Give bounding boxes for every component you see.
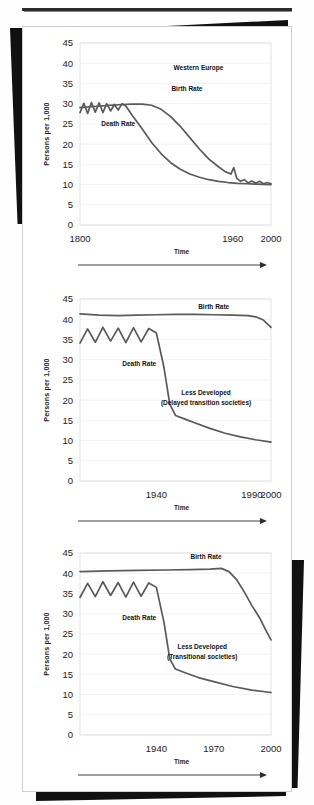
- plot-frame: [80, 553, 271, 735]
- x-axis-title: Time: [174, 758, 189, 765]
- x-axis-tick-label: 1990: [241, 489, 262, 500]
- birth-rate-label: Birth Rate: [171, 85, 202, 92]
- x-axis-tick-label: 1800: [69, 233, 90, 244]
- y-axis-tick-label: 25: [62, 118, 73, 129]
- y-axis-tick-label: 10: [62, 435, 73, 446]
- y-axis-tick-label: 5: [68, 455, 73, 466]
- y-axis-tick-label: 30: [62, 354, 73, 365]
- region-label: Less Developed: [181, 389, 231, 397]
- y-axis-title: Persons per 1,000: [43, 358, 51, 421]
- y-axis-tick-label: 0: [68, 219, 73, 230]
- x-axis-title: Time: [174, 248, 189, 255]
- death-rate-label: Death Rate: [122, 614, 156, 621]
- y-axis-tick-label: 5: [68, 709, 73, 720]
- x-axis-tick-label: 1940: [146, 743, 167, 754]
- y-axis-tick-label: 20: [62, 395, 73, 406]
- y-axis-tick-label: 25: [62, 374, 73, 385]
- y-axis-tick-label: 45: [62, 37, 73, 48]
- page-top-rule: [22, 8, 292, 11]
- y-axis-tick-label: 45: [62, 293, 73, 304]
- death-rate-curve: [80, 102, 271, 184]
- y-axis-tick-label: 15: [62, 159, 73, 170]
- y-axis-tick-label: 10: [62, 689, 73, 700]
- y-axis-tick-label: 15: [62, 415, 73, 426]
- death-rate-curve: [80, 327, 271, 442]
- x-axis-tick-label: 2000: [260, 743, 281, 754]
- y-axis-tick-label: 40: [62, 58, 73, 69]
- y-axis-tick-label: 0: [68, 475, 73, 486]
- birth-rate-curve: [80, 568, 271, 640]
- birth-rate-curve: [80, 314, 271, 327]
- x-axis-tick-label: 1940: [146, 489, 167, 500]
- chart-svg: 051015202530354045Persons per 1,00018001…: [23, 29, 291, 283]
- time-arrow-head: [260, 518, 267, 524]
- figure-page: 051015202530354045Persons per 1,00018001…: [0, 0, 314, 805]
- plot-frame: [80, 299, 271, 481]
- y-axis-tick-label: 40: [62, 568, 73, 579]
- chart-svg: 051015202530354045Persons per 1,00019401…: [23, 539, 291, 793]
- birth-rate-label: Birth Rate: [191, 553, 222, 560]
- x-axis-tick-label: 1970: [203, 743, 224, 754]
- y-axis-tick-label: 35: [62, 334, 73, 345]
- y-axis-tick-label: 25: [62, 628, 73, 639]
- page-shadow-bottom: [36, 792, 286, 801]
- y-axis-tick-label: 35: [62, 588, 73, 599]
- death-rate-curve: [80, 582, 271, 693]
- birth-rate-label: Birth Rate: [198, 303, 229, 310]
- time-arrow-head: [260, 772, 267, 778]
- y-axis-tick-label: 40: [62, 314, 73, 325]
- death-rate-label: Death Rate: [122, 360, 156, 367]
- region-label: Less Developed: [177, 643, 227, 651]
- chart-panel-delayed-transition: 051015202530354045Persons per 1,00019401…: [23, 285, 291, 539]
- y-axis-tick-label: 30: [62, 608, 73, 619]
- y-axis-tick-label: 30: [62, 98, 73, 109]
- chart-svg: 051015202530354045Persons per 1,00019401…: [23, 285, 291, 539]
- chart-panel-transitional: 051015202530354045Persons per 1,00019401…: [23, 539, 291, 793]
- y-axis-tick-label: 20: [62, 139, 73, 150]
- y-axis-tick-label: 5: [68, 199, 73, 210]
- y-axis-tick-label: 35: [62, 78, 73, 89]
- x-axis-tick-label: 2000: [260, 489, 281, 500]
- death-rate-label: Death Rate: [101, 120, 135, 127]
- x-axis-title: Time: [174, 504, 189, 511]
- region-label: Western Europe: [174, 64, 224, 72]
- y-axis-title: Persons per 1,000: [43, 612, 51, 675]
- y-axis-tick-label: 20: [62, 649, 73, 660]
- y-axis-tick-label: 45: [62, 547, 73, 558]
- y-axis-tick-label: 10: [62, 179, 73, 190]
- time-arrow-head: [260, 262, 267, 268]
- y-axis-tick-label: 15: [62, 669, 73, 680]
- y-axis-tick-label: 0: [68, 729, 73, 740]
- region-sublabel: (Transitional societies): [167, 653, 237, 661]
- chart-panel-western-europe: 051015202530354045Persons per 1,00018001…: [23, 29, 291, 283]
- x-axis-tick-label: 1960: [222, 233, 243, 244]
- y-axis-title: Persons per 1,000: [43, 102, 51, 165]
- region-sublabel: (Delayed transition societies): [161, 399, 251, 407]
- figure-sheet: 051015202530354045Persons per 1,00018001…: [22, 26, 292, 792]
- x-axis-tick-label: 2000: [260, 233, 281, 244]
